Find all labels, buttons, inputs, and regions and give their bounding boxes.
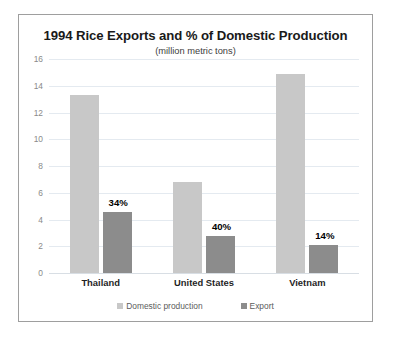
bar-export — [309, 245, 338, 273]
chart-legend: Domestic productionExport — [19, 301, 372, 311]
bars-layer: 34%40%14% — [49, 59, 359, 273]
y-axis-tick-label: 14 — [34, 81, 43, 91]
bar-value-label: 14% — [315, 230, 334, 241]
y-axis-tick-label: 4 — [38, 215, 43, 225]
y-axis-tick-label: 10 — [34, 134, 43, 144]
x-axis-category-label: Vietnam — [289, 277, 325, 288]
y-axis-tick-label: 6 — [38, 188, 43, 198]
y-axis-tick-label: 2 — [38, 241, 43, 251]
legend-swatch-icon — [117, 303, 123, 309]
legend-swatch-icon — [241, 303, 247, 309]
y-axis-tick-label: 16 — [34, 54, 43, 64]
x-axis-category-label: United States — [174, 277, 234, 288]
chart-title: 1994 Rice Exports and % of Domestic Prod… — [19, 28, 372, 43]
chart-subtitle: (million metric tons) — [19, 46, 372, 56]
legend-item[interactable]: Export — [241, 301, 274, 311]
y-axis-tick-label: 0 — [38, 268, 43, 278]
bar-export — [206, 236, 235, 273]
x-axis-category-label: Thailand — [81, 277, 120, 288]
bar-domestic-production — [70, 95, 99, 273]
bar-domestic-production — [173, 182, 202, 273]
bar-domestic-production — [276, 74, 305, 273]
y-axis-tick-label: 12 — [34, 108, 43, 118]
bar-value-label: 34% — [109, 197, 128, 208]
legend-item[interactable]: Domestic production — [117, 301, 202, 311]
chart-container: 1994 Rice Exports and % of Domestic Prod… — [18, 14, 373, 322]
legend-label: Domestic production — [126, 301, 202, 311]
bar-value-label: 40% — [212, 221, 231, 232]
y-axis-tick-label: 8 — [38, 161, 43, 171]
plot-area: 34%40%14% — [49, 59, 359, 273]
gridline — [49, 273, 359, 274]
legend-label: Export — [250, 301, 274, 311]
x-axis: ThailandUnited StatesVietnam — [49, 277, 359, 293]
bar-export — [103, 212, 132, 273]
